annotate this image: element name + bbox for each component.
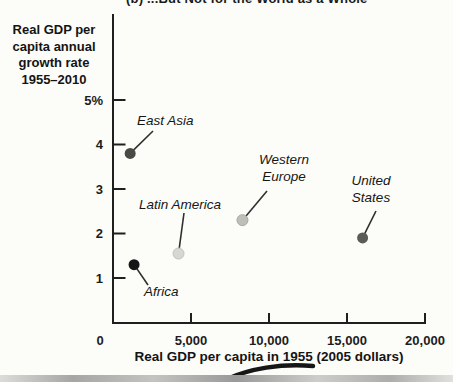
label-united-states: UnitedStates <box>351 173 391 205</box>
x-tick-label: 10,000 <box>249 333 289 348</box>
label-line: States <box>352 190 391 205</box>
label-east-asia: East Asia <box>137 113 194 128</box>
label-africa: Africa <box>143 284 179 299</box>
label-line: Africa <box>143 284 179 299</box>
data-point-africa <box>129 259 140 270</box>
y-tick-label: 2 <box>96 226 103 241</box>
y-tick-label: 4 <box>96 137 104 152</box>
x-tick-label: 15,000 <box>327 333 367 348</box>
x-axis-title: Real GDP per capita in 1955 (2005 dollar… <box>69 349 453 364</box>
x-tick-label: 5,000 <box>175 333 208 348</box>
scanned-chart-page: (b) ...But Not for the World as a Whole … <box>0 0 453 382</box>
x-tick-label: 0 <box>96 333 103 348</box>
label-western-europe: WesternEurope <box>259 152 309 184</box>
data-point-western-europe <box>237 215 248 226</box>
y-tick-label: 1 <box>96 271 103 286</box>
label-line: Latin America <box>139 197 222 212</box>
data-point-latin-america <box>173 248 184 259</box>
label-line: Western <box>259 152 309 167</box>
data-point-east-asia <box>125 148 136 159</box>
scatter-plot-canvas: 5%432105,00010,00015,00020,000East AsiaW… <box>0 0 453 382</box>
label-line: United <box>351 173 391 188</box>
y-tick-label: 5% <box>84 93 103 108</box>
y-tick-label: 3 <box>96 182 103 197</box>
data-point-united-states <box>357 232 368 243</box>
label-line: East Asia <box>137 113 194 128</box>
leader-line-latin-america <box>179 213 184 254</box>
label-latin-america: Latin America <box>139 197 222 212</box>
page-edge-shadow <box>0 375 453 382</box>
label-line: Europe <box>262 169 306 184</box>
x-tick-label: 20,000 <box>405 333 445 348</box>
